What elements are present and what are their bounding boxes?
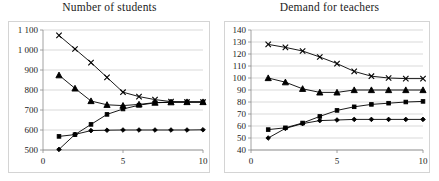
data-point-square (352, 105, 356, 109)
y-tick-label: 120 (233, 49, 247, 59)
data-point-diamond (266, 136, 271, 141)
series-line-square (59, 102, 203, 136)
data-point-diamond (153, 128, 158, 133)
y-tick-label: 40 (237, 145, 247, 155)
data-point-triangle (300, 86, 306, 92)
data-point-diamond (369, 117, 374, 122)
x-tick-label: 5 (121, 156, 126, 166)
data-point-square (370, 103, 374, 107)
chart-panel-demand-for-teachers: Demand for teachers 40506070809010011012… (220, 0, 439, 181)
series-line-square (268, 101, 423, 129)
x-tick-label: 10 (419, 156, 429, 166)
tick-labels: 4050607080901001101201301400510 (233, 25, 429, 166)
y-tick-label: 600 (25, 125, 39, 135)
data-point-diamond (352, 117, 357, 122)
data-point-diamond (386, 117, 391, 122)
y-tick-label: 70 (237, 109, 247, 119)
data-point-square (89, 123, 93, 127)
x-tick-label: 10 (199, 156, 209, 166)
y-tick-label: 700 (25, 105, 39, 115)
data-point-diamond (318, 118, 323, 123)
series-cross (56, 33, 205, 105)
y-tick-label: 50 (237, 133, 247, 143)
page-title-right: Demand for teachers (220, 1, 439, 13)
data-point-square (387, 101, 391, 105)
series-cross (266, 42, 426, 82)
data-point-square (121, 107, 125, 111)
x-tick-label: 0 (249, 156, 254, 166)
plot-area-right: 4050607080901001101201301400510 (225, 22, 429, 172)
data-point-diamond (137, 128, 142, 133)
y-tick-label: 800 (25, 85, 39, 95)
y-tick-label: 90 (237, 85, 247, 95)
plot-area-left: 5006007008009001 0001 1000510 (9, 22, 209, 172)
y-tick-label: 500 (25, 145, 39, 155)
data-point-square (185, 100, 189, 104)
data-point-square (169, 100, 173, 104)
chart-panel-number-of-students: Number of students 5006007008009001 0001… (0, 0, 219, 181)
data-point-square (266, 128, 270, 132)
figure-root: Number of students 5006007008009001 0001… (0, 0, 439, 181)
data-point-diamond (121, 128, 126, 133)
y-tick-label: 60 (237, 121, 247, 131)
chart-svg: 4050607080901001101201301400510 (225, 22, 429, 172)
y-tick-label: 130 (233, 37, 247, 47)
y-tick-label: 140 (233, 25, 247, 35)
series-diamond (57, 128, 206, 152)
data-point-square (57, 135, 61, 139)
plot-frame-left: 5006007008009001 0001 1000510 (8, 21, 210, 173)
data-point-triangle (56, 72, 62, 78)
plot-frame-right: 4050607080901001101201301400510 (224, 21, 430, 173)
page-title-left: Number of students (0, 1, 219, 13)
y-tick-label: 110 (233, 61, 247, 71)
tick-labels: 5006007008009001 0001 1000510 (18, 25, 208, 166)
data-point-square (105, 113, 109, 117)
data-point-diamond (201, 128, 206, 133)
y-tick-label: 80 (237, 97, 247, 107)
data-point-square (335, 109, 339, 113)
y-tick-label: 100 (233, 73, 247, 83)
x-tick-label: 0 (41, 156, 46, 166)
series-line-triangle (59, 75, 203, 105)
data-point-diamond (89, 128, 94, 133)
data-point-square (404, 100, 408, 104)
series-diamond (266, 117, 425, 140)
series-line-cross (59, 35, 203, 102)
axes (40, 30, 203, 153)
chart-svg: 5006007008009001 0001 1000510 (9, 22, 209, 172)
data-point-square (137, 103, 141, 107)
data-point-diamond (404, 117, 409, 122)
y-tick-label: 1 000 (18, 45, 39, 55)
series-square (57, 100, 205, 138)
data-point-square (421, 100, 425, 104)
data-point-diamond (185, 128, 190, 133)
data-point-diamond (335, 118, 340, 123)
data-point-diamond (105, 128, 110, 133)
data-point-diamond (421, 117, 426, 122)
series-line-diamond (59, 130, 203, 150)
data-point-square (201, 100, 205, 104)
series-line-cross (268, 44, 423, 78)
data-point-diamond (169, 128, 174, 133)
data-point-square (318, 115, 322, 119)
data-point-square (153, 101, 157, 105)
series-line-diamond (268, 119, 423, 138)
x-tick-label: 5 (335, 156, 340, 166)
y-tick-label: 1 100 (18, 25, 39, 35)
y-tick-label: 900 (25, 65, 39, 75)
